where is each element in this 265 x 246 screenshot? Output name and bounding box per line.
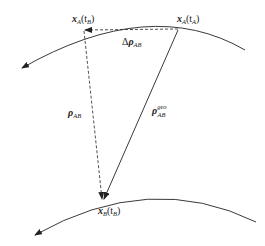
label-rho-ab: ρAB (67, 107, 81, 119)
label-xa-ta: xA(tA) (176, 13, 199, 25)
orbit-diagram: xA(tB) xA(tA) ΔρAB ρAB ρgeoAB xB(tB) (0, 0, 265, 246)
rho-geo-arrow (104, 30, 178, 199)
label-delta-rho: ΔρAB (122, 36, 142, 48)
orbit-b-curve (35, 199, 256, 235)
label-rho-geo: ρgeoAB (151, 103, 167, 118)
delta-rho-arrow (85, 29, 178, 30)
label-xa-tb: xA(tB) (71, 13, 94, 25)
label-xb-tb: xB(tB) (97, 205, 120, 217)
rho-ab-arrow (84, 31, 102, 199)
